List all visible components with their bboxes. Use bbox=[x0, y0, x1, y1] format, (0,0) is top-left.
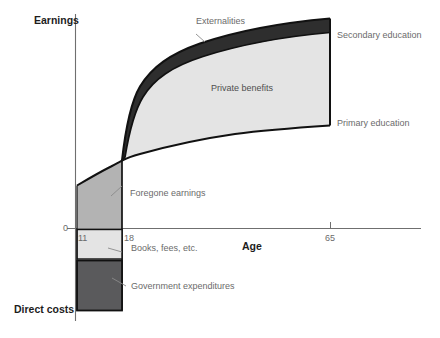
private-benefits-label: Private benefits bbox=[211, 83, 274, 93]
education-costs-benefits-diagram: Earnings Age 0 11 18 65 Direct costs Ext… bbox=[0, 0, 440, 338]
direct-costs-label: Direct costs bbox=[14, 303, 74, 315]
foregone-earnings-area bbox=[77, 161, 122, 229]
origin-label: 0 bbox=[63, 223, 68, 233]
externalities-label: Externalities bbox=[196, 16, 246, 26]
secondary-education-label: Secondary education bbox=[337, 30, 422, 40]
x-tick-label-11: 11 bbox=[78, 233, 87, 243]
foregone-earnings-label: Foregone earnings bbox=[130, 188, 206, 198]
x-axis-title: Age bbox=[242, 240, 262, 252]
books-fees-label: Books, fees, etc. bbox=[131, 243, 198, 253]
x-tick-label-18: 18 bbox=[124, 233, 134, 243]
figure-canvas: Earnings Age 0 11 18 65 Direct costs Ext… bbox=[0, 0, 440, 338]
primary-education-label: Primary education bbox=[337, 118, 410, 128]
x-tick-label-65: 65 bbox=[325, 233, 335, 243]
externalities-leader-line bbox=[196, 34, 205, 42]
government-expenditures-block bbox=[77, 261, 122, 311]
y-axis-title: Earnings bbox=[34, 14, 79, 26]
government-expenditures-label: Government expenditures bbox=[131, 281, 235, 291]
